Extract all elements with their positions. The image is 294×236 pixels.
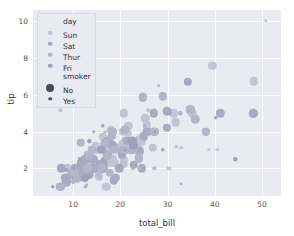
legend-item-thur[interactable]: Thur [38,49,95,60]
legend-marker-icon [48,63,53,68]
legend-item-no[interactable]: No [38,82,95,93]
data-point [149,109,157,117]
data-point [159,92,167,100]
y-tick-label: 8 [8,53,28,62]
legend-marker-icon [48,52,53,57]
data-point [138,93,146,101]
data-point [149,144,157,152]
x-tick-label: 20 [116,200,126,209]
legend-marker-icon [48,97,52,101]
data-point [207,148,210,151]
legend-title-day: day [38,16,95,27]
legend-marker-icon [46,84,54,92]
data-point [119,109,127,117]
data-point [88,139,91,142]
legend-marker-icon [48,30,53,35]
y-tick-label: 4 [8,127,28,136]
x-tick-label: 10 [68,200,78,209]
data-point [110,176,118,184]
scatter-plot-figure: 1020304050 246810 total_bill tip day Sun… [0,0,294,236]
data-point [84,185,87,188]
data-point [131,167,134,170]
data-point [58,109,61,112]
x-tick-label: 50 [257,200,267,209]
legend-item-sat[interactable]: Sat [38,38,95,49]
data-point [172,118,180,126]
data-point [102,182,110,190]
data-point [56,183,64,191]
x-tick-label: 40 [210,200,220,209]
data-point [233,157,236,160]
legend-hue-entries: SunSatThurFri [38,27,95,71]
data-point [216,148,219,151]
y-tick-label: 10 [8,17,28,26]
data-point [214,116,217,119]
legend-item-label: Yes [38,97,75,106]
data-point [175,145,178,148]
data-point [202,127,210,135]
legend-item-sun[interactable]: Sun [38,27,95,38]
data-point [51,185,54,188]
data-point [161,148,164,151]
data-point [72,180,75,183]
data-point [92,130,95,133]
legend-item-fri[interactable]: Fri [38,60,95,71]
data-point [157,84,160,87]
data-point [115,164,123,172]
data-point [184,78,192,86]
legend-size-entries: NoYes [38,82,95,104]
y-tick-label: 2 [8,164,28,173]
data-point [77,139,85,147]
data-point [135,154,143,162]
data-point [264,19,267,22]
data-point [180,146,183,149]
data-point [179,182,182,185]
data-point [191,115,199,123]
data-point [249,109,257,117]
data-point [179,111,182,114]
legend-title-smoker: smoker [38,71,95,82]
y-axis-label: tip [6,79,16,119]
legend[interactable]: day SunSatThurFri smoker NoYes [37,13,96,108]
legend-item-yes[interactable]: Yes [38,93,95,104]
x-axis-label: total_bill [33,218,281,228]
data-point [250,77,258,85]
x-tick-label: 30 [163,200,173,209]
data-point [153,167,156,170]
legend-marker-icon [48,41,53,46]
data-point [101,124,104,127]
data-point [216,109,224,117]
data-point [140,132,148,140]
data-point [108,132,116,140]
